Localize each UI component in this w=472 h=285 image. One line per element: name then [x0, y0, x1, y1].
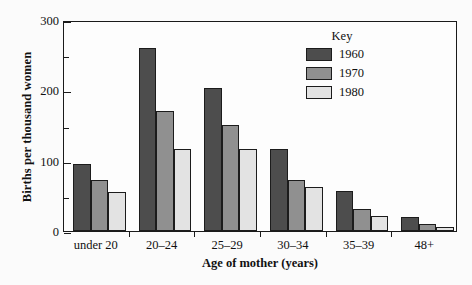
legend-swatch [306, 48, 332, 61]
legend-title: Key [306, 29, 402, 44]
legend-label: 1960 [339, 47, 364, 62]
bar [305, 187, 323, 231]
x-category-label: 30–34 [277, 238, 308, 253]
bar [204, 88, 222, 231]
bar [139, 48, 157, 231]
legend-rows: 196019701980 [306, 46, 402, 101]
bar [91, 180, 109, 231]
bar [288, 180, 306, 231]
y-tick-major [64, 92, 71, 93]
y-tick-minor [64, 128, 69, 129]
x-category-label: 48+ [414, 238, 434, 253]
bar [401, 217, 419, 231]
x-tick [129, 232, 130, 237]
bar [270, 149, 288, 231]
y-tick-label: 0 [25, 225, 59, 240]
x-tick [326, 232, 327, 237]
y-tick-major [64, 163, 71, 164]
chart-page: Births per thousand women 0100200300 und… [0, 0, 472, 285]
legend-item: 1970 [306, 65, 402, 82]
x-category-label: 35–39 [343, 238, 374, 253]
y-axis-tick-labels: 0100200300 [21, 21, 59, 232]
bar [336, 191, 354, 231]
bar [419, 224, 437, 231]
bar [73, 164, 91, 231]
bar [239, 149, 257, 231]
y-tick-minor [64, 198, 69, 199]
legend-label: 1970 [339, 66, 364, 81]
y-tick-major [64, 22, 71, 23]
bar [108, 192, 126, 231]
bar [156, 111, 174, 231]
bar [371, 216, 389, 231]
x-tick [391, 232, 392, 237]
y-tick-label: 300 [25, 14, 59, 29]
bar [222, 125, 240, 231]
x-category-label: 20–24 [146, 238, 177, 253]
bar [436, 227, 454, 231]
legend-swatch [306, 86, 332, 99]
y-tick-label: 200 [25, 84, 59, 99]
legend-label: 1980 [339, 85, 364, 100]
legend-swatch [306, 67, 332, 80]
y-tick-label: 100 [25, 154, 59, 169]
legend-item: 1980 [306, 84, 402, 101]
bar [174, 149, 192, 231]
legend: Key 196019701980 [306, 29, 402, 103]
x-axis-category-labels: under 2020–2425–2930–3435–3948+ [63, 238, 457, 254]
x-category-label: 25–29 [212, 238, 243, 253]
x-axis-title: Age of mother (years) [63, 256, 457, 271]
x-category-label: under 20 [74, 238, 118, 253]
legend-item: 1960 [306, 46, 402, 63]
y-tick-minor [64, 57, 69, 58]
bar [353, 209, 371, 231]
x-tick [194, 232, 195, 237]
x-tick [260, 232, 261, 237]
